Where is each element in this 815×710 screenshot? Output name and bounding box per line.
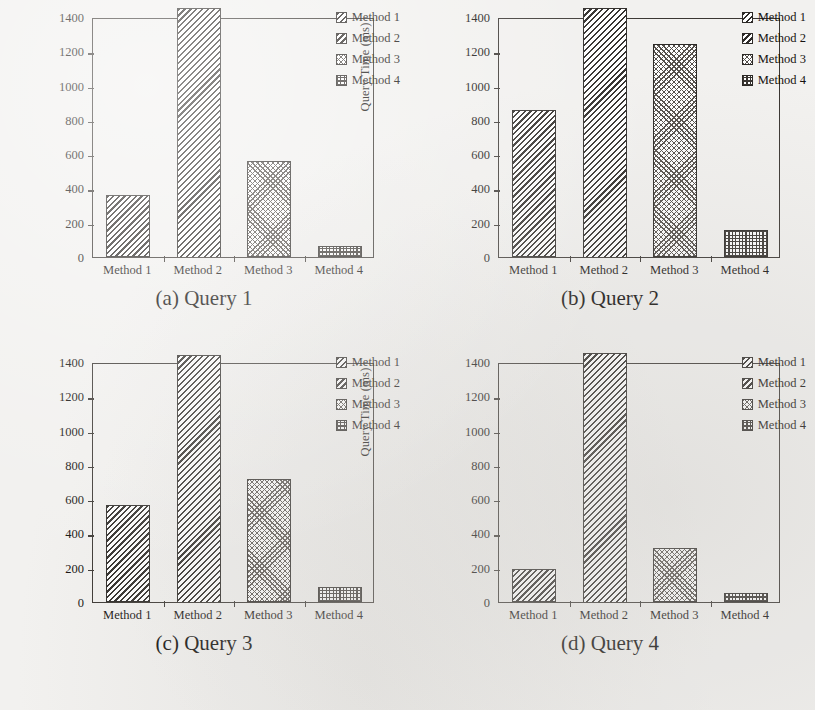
y-axis-tick-label: 800	[471, 460, 490, 473]
y-axis-tick-mark	[494, 467, 500, 468]
y-axis-tick-label: 1000	[465, 425, 490, 438]
legend-swatch-icon	[742, 12, 753, 23]
legend-label: Method 1	[352, 11, 400, 24]
x-axis-tick-label: Method 4	[721, 609, 769, 622]
chart-panel-query-3: Query Time (ms) 020040060080010001200140…	[0, 345, 408, 695]
x-axis-tick-mark	[305, 601, 306, 607]
legend: Method 1Method 2Method 3Method 4	[336, 10, 400, 94]
y-axis-tick-mark	[88, 156, 94, 157]
legend-label: Method 3	[352, 53, 400, 66]
y-axis-tick-label: 200	[65, 217, 84, 230]
y-axis-tick-label: 0	[484, 252, 490, 265]
legend-label: Method 4	[758, 419, 806, 432]
legend-swatch-icon	[336, 33, 347, 44]
legend-item: Method 2	[336, 31, 400, 46]
legend-label: Method 2	[352, 377, 400, 390]
x-axis-tick-mark	[234, 601, 235, 607]
legend-swatch-icon	[336, 378, 347, 389]
legend-swatch-icon	[336, 54, 347, 65]
legend-item: Method 1	[336, 10, 400, 25]
y-axis-tick-mark	[88, 570, 94, 571]
y-axis-tick-label: 600	[65, 149, 84, 162]
y-axis-tick-label: 400	[471, 528, 490, 541]
y-axis-tick-mark	[494, 398, 500, 399]
legend-swatch-icon	[336, 357, 347, 368]
x-axis-tick-label: Method 4	[315, 264, 363, 277]
y-axis-tick-label: 1000	[465, 80, 490, 93]
legend-label: Method 1	[758, 11, 806, 24]
panel-caption: (a) Query 1	[0, 288, 408, 309]
y-axis-tick-label: 1200	[59, 391, 84, 404]
legend-item: Method 3	[336, 52, 400, 67]
bar-method-2	[177, 8, 221, 257]
y-axis-tick-label: 1000	[59, 425, 84, 438]
plot-wrapper: Query Time (ms) 020040060080010001200140…	[406, 345, 814, 645]
legend-label: Method 3	[758, 398, 806, 411]
bar-method-3	[653, 44, 697, 257]
legend-item: Method 3	[742, 397, 806, 412]
bar-method-2	[583, 353, 627, 602]
y-axis-tick-label: 0	[78, 597, 84, 610]
plot-wrapper: Query Time (ms) 020040060080010001200140…	[406, 0, 814, 300]
y-axis-tick-label: 800	[65, 115, 84, 128]
y-axis-tick-label: 200	[65, 562, 84, 575]
y-axis-tick-mark	[494, 190, 500, 191]
x-axis-tick-label: Method 2	[580, 609, 628, 622]
y-axis-tick-label: 1400	[59, 12, 84, 25]
y-axis-tick-label: 400	[65, 183, 84, 196]
y-axis-tick-mark	[88, 53, 94, 54]
plot-area	[92, 363, 374, 603]
legend-swatch-icon	[336, 12, 347, 23]
y-axis-tick-label: 1200	[465, 46, 490, 59]
legend-item: Method 2	[742, 31, 806, 46]
legend-item: Method 1	[336, 355, 400, 370]
legend-item: Method 4	[336, 73, 400, 88]
x-axis-tick-label: Method 4	[315, 609, 363, 622]
y-axis-tick-mark	[494, 570, 500, 571]
x-axis-tick-mark	[711, 256, 712, 262]
plot-wrapper: Query Time (ms) 020040060080010001200140…	[0, 0, 408, 300]
legend-swatch-icon	[336, 75, 347, 86]
x-axis-tick-label: Method 3	[244, 264, 292, 277]
bar-method-3	[247, 161, 291, 257]
bar-method-1	[512, 110, 556, 257]
x-axis-tick-mark	[305, 256, 306, 262]
x-axis-tick-mark	[164, 256, 165, 262]
y-axis-tick-label: 1200	[59, 46, 84, 59]
bar-method-4	[318, 587, 362, 602]
legend-label: Method 2	[758, 377, 806, 390]
legend: Method 1Method 2Method 3Method 4	[742, 10, 806, 94]
x-axis-tick-labels: Method 1Method 2Method 3Method 4	[498, 609, 780, 627]
legend-swatch-icon	[742, 399, 753, 410]
plot-area	[498, 363, 780, 603]
bar-method-2	[177, 355, 221, 602]
x-axis-tick-label: Method 1	[103, 609, 151, 622]
y-axis-tick-mark	[494, 122, 500, 123]
legend: Method 1Method 2Method 3Method 4	[336, 355, 400, 439]
plot-area	[498, 18, 780, 258]
legend-label: Method 4	[758, 74, 806, 87]
x-axis-tick-label: Method 3	[650, 264, 698, 277]
y-axis-tick-mark	[88, 122, 94, 123]
legend-label: Method 1	[352, 356, 400, 369]
y-axis-tick-label: 800	[65, 460, 84, 473]
legend-item: Method 2	[742, 376, 806, 391]
x-axis-tick-mark	[640, 256, 641, 262]
panel-caption: (b) Query 2	[406, 288, 814, 309]
legend-label: Method 2	[758, 32, 806, 45]
y-axis-tick-labels: 0200400600800100012001400	[30, 363, 88, 603]
y-axis-tick-label: 1400	[465, 12, 490, 25]
legend-swatch-icon	[336, 399, 347, 410]
y-axis-tick-label: 1200	[465, 391, 490, 404]
y-axis-tick-label: 200	[471, 217, 490, 230]
x-axis-tick-label: Method 1	[509, 264, 557, 277]
y-axis-tick-labels: 0200400600800100012001400	[436, 18, 494, 258]
bar-method-4	[724, 230, 768, 257]
legend-item: Method 3	[742, 52, 806, 67]
legend: Method 1Method 2Method 3Method 4	[742, 355, 806, 439]
plot-area	[92, 18, 374, 258]
x-axis-tick-mark	[234, 256, 235, 262]
x-axis-tick-label: Method 1	[103, 264, 151, 277]
y-axis-tick-mark	[88, 467, 94, 468]
y-axis-tick-label: 800	[471, 115, 490, 128]
